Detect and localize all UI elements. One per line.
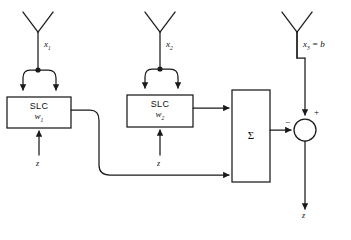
minus-sign-label: − bbox=[285, 117, 290, 127]
summer-label: Σ bbox=[232, 129, 270, 142]
plus-sign-label: + bbox=[314, 107, 319, 117]
slc-1-label: SLC w1 bbox=[7, 101, 71, 124]
noise-input-2-label: z bbox=[157, 160, 160, 168]
branch-2-left bbox=[145, 69, 160, 88]
antenna-3-label: x3 = b bbox=[303, 40, 325, 51]
noise-input-1-label: z bbox=[36, 160, 39, 168]
output-label: z bbox=[302, 212, 305, 220]
summing-junction-circle bbox=[294, 119, 316, 141]
branch-2-right bbox=[160, 69, 178, 88]
antenna-2-label: x2 bbox=[166, 40, 173, 51]
branch-1-left bbox=[23, 70, 38, 90]
slc-2-label: SLC w2 bbox=[127, 99, 193, 122]
antenna-1-label: x1 bbox=[44, 40, 51, 51]
branch-1-right bbox=[38, 70, 56, 90]
